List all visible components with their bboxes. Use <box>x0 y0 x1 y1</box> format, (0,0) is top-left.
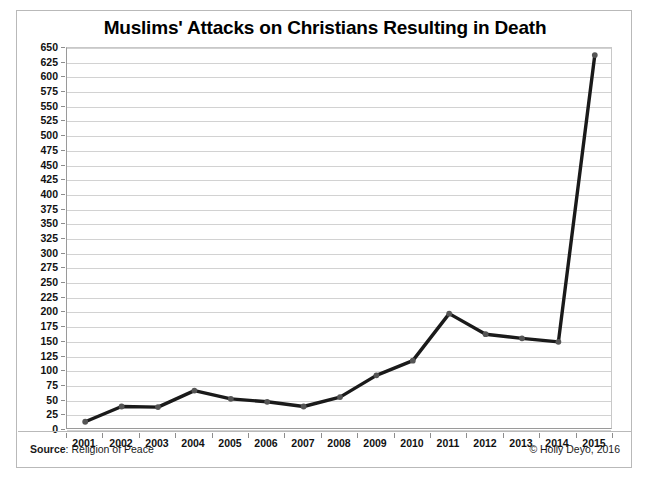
y-tick-mark <box>61 311 65 312</box>
data-point-marker <box>82 419 88 425</box>
y-tick-mark <box>61 253 65 254</box>
data-point-marker <box>592 52 598 58</box>
y-tick-mark <box>61 76 65 77</box>
data-point-marker <box>374 372 380 378</box>
y-tick-label: 150 <box>40 336 58 347</box>
y-tick-label: 225 <box>40 292 58 303</box>
data-point-marker <box>337 394 343 400</box>
data-point-marker <box>410 358 416 364</box>
y-tick-label: 175 <box>40 321 58 332</box>
y-tick-mark <box>61 150 65 151</box>
y-tick-label: 475 <box>40 145 58 156</box>
y-tick-mark <box>61 297 65 298</box>
source-credit: Source: Religion of Peace <box>30 443 154 455</box>
data-point-marker <box>119 404 125 410</box>
y-tick-mark <box>61 356 65 357</box>
y-tick-mark <box>61 165 65 166</box>
y-tick-mark <box>61 326 65 327</box>
y-tick-mark <box>61 282 65 283</box>
y-tick-mark <box>61 194 65 195</box>
y-tick-label: 575 <box>40 86 58 97</box>
series-line <box>85 55 595 422</box>
y-tick-mark <box>61 223 65 224</box>
data-point-marker <box>446 311 452 317</box>
y-tick-mark <box>61 238 65 239</box>
y-tick-mark <box>61 106 65 107</box>
y-tick-mark <box>61 120 65 121</box>
data-point-marker <box>301 404 307 410</box>
y-tick-label: 425 <box>40 174 58 185</box>
y-tick-mark <box>61 179 65 180</box>
y-tick-label: 450 <box>40 160 58 171</box>
data-point-marker <box>519 335 525 341</box>
chart-container: Muslims' Attacks on Christians Resulting… <box>16 10 632 468</box>
source-label: Source <box>30 443 66 455</box>
y-tick-label: 25 <box>46 409 58 420</box>
y-tick-mark <box>61 91 65 92</box>
source-value: Religion of Peace <box>71 443 153 455</box>
y-tick-mark <box>61 400 65 401</box>
y-tick-label: 300 <box>40 248 58 259</box>
y-tick-label: 500 <box>40 130 58 141</box>
y-tick-label: 100 <box>40 365 58 376</box>
y-tick-mark <box>61 385 65 386</box>
data-point-marker <box>228 396 234 402</box>
y-tick-label: 600 <box>40 71 58 82</box>
y-axis: 0255075100125150175200225250275300325350… <box>17 47 61 429</box>
y-tick-label: 375 <box>40 204 58 215</box>
chart-footer: Source: Religion of Peace © Holly Deyo, … <box>18 431 632 467</box>
y-tick-label: 125 <box>40 351 58 362</box>
y-tick-mark <box>61 267 65 268</box>
y-tick-mark <box>61 429 65 430</box>
y-tick-label: 275 <box>40 262 58 273</box>
y-tick-mark <box>61 62 65 63</box>
chart-title: Muslims' Attacks on Christians Resulting… <box>17 17 633 39</box>
y-tick-mark <box>61 370 65 371</box>
y-tick-label: 250 <box>40 277 58 288</box>
y-tick-mark <box>61 414 65 415</box>
line-series <box>67 48 613 430</box>
y-tick-label: 200 <box>40 306 58 317</box>
data-point-marker <box>483 331 489 337</box>
plot-area <box>66 47 612 429</box>
y-tick-mark <box>61 47 65 48</box>
data-point-marker <box>192 388 198 394</box>
y-tick-label: 525 <box>40 115 58 126</box>
data-point-marker <box>155 404 161 410</box>
y-tick-label: 650 <box>40 42 58 53</box>
y-tick-label: 350 <box>40 218 58 229</box>
copyright-notice: © Holly Deyo, 2016 <box>529 443 620 455</box>
y-tick-mark <box>61 341 65 342</box>
y-tick-mark <box>61 209 65 210</box>
data-point-marker <box>556 339 562 345</box>
y-tick-label: 325 <box>40 233 58 244</box>
y-tick-label: 400 <box>40 189 58 200</box>
y-tick-mark <box>61 135 65 136</box>
y-tick-label: 75 <box>46 380 58 391</box>
y-tick-label: 625 <box>40 57 58 68</box>
data-point-marker <box>264 399 270 405</box>
y-tick-label: 50 <box>46 395 58 406</box>
y-tick-label: 550 <box>40 101 58 112</box>
